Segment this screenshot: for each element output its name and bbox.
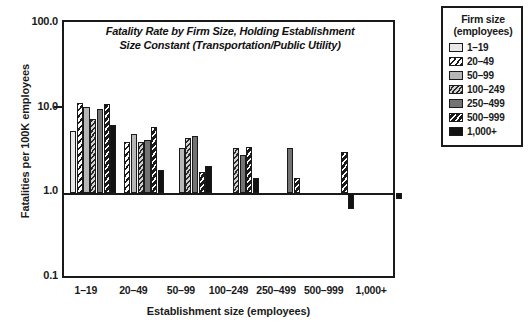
legend: Firm size (employees) 1–1920–4950–99100–…: [441, 6, 523, 147]
bar: [240, 155, 246, 193]
legend-item-label: 50–99: [467, 70, 494, 81]
y-tick-label: 100.0: [31, 15, 58, 27]
x-axis-title: Establishment size (employees): [62, 305, 395, 317]
chart-title-line-2: Size Constant (Transportation/Public Uti…: [70, 38, 390, 52]
bar: [83, 107, 89, 193]
bar: [341, 152, 347, 194]
legend-swatch: [449, 99, 463, 108]
legend-item-label: 250–499: [467, 98, 505, 109]
legend-item-label: 1,000+: [467, 126, 497, 137]
bar: [138, 142, 144, 193]
legend-item: 250–499: [449, 97, 517, 109]
legend-item: 500–999: [449, 111, 517, 123]
legend-item-label: 1–19: [467, 42, 488, 53]
bar: [179, 148, 185, 193]
x-tick-label: 1,000+: [336, 284, 406, 296]
legend-swatch: [449, 57, 463, 66]
legend-items: 1–1920–4950–99100–249250–499500–9991,000…: [449, 41, 517, 137]
bar: [158, 170, 164, 194]
legend-title: Firm size (employees): [449, 13, 517, 37]
baseline-1-0: [64, 193, 395, 195]
bar: [97, 109, 103, 194]
bar: [287, 148, 293, 193]
bar: [185, 138, 191, 193]
legend-swatch: [449, 71, 463, 80]
bar: [104, 104, 110, 194]
chart-root: 100.010.01.00.1 Fatalities per 100K empl…: [0, 0, 528, 336]
chart-title-line-1: Fatality Rate by Firm Size, Holding Esta…: [70, 24, 390, 38]
bar: [131, 134, 137, 193]
legend-item: 1–19: [449, 41, 517, 53]
bar: [151, 127, 157, 193]
bar: [246, 147, 252, 193]
bar: [192, 136, 198, 193]
bar: [90, 119, 96, 193]
legend-item: 100–249: [449, 83, 517, 95]
legend-item-label: 20–49: [467, 56, 494, 67]
legend-swatch: [449, 43, 463, 52]
legend-item: 20–49: [449, 55, 517, 67]
bar: [348, 193, 354, 209]
legend-item: 50–99: [449, 69, 517, 81]
bar: [199, 172, 205, 194]
bar: [205, 166, 211, 193]
bar: [294, 178, 300, 193]
legend-title-line-2: (employees): [449, 25, 517, 37]
y-axis-title: Fatalities per 100K employees: [19, 46, 31, 236]
bar: [233, 148, 239, 193]
legend-swatch: [449, 127, 463, 136]
bar: [144, 140, 150, 194]
legend-item: 1,000+: [449, 125, 517, 137]
bar: [396, 193, 402, 199]
bar: [253, 178, 259, 193]
legend-item-label: 500–999: [467, 112, 505, 123]
chart-title: Fatality Rate by Firm Size, Holding Esta…: [70, 24, 390, 52]
bar: [124, 142, 130, 193]
legend-swatch: [449, 85, 463, 94]
legend-swatch: [449, 113, 463, 122]
plot-area: [62, 20, 395, 278]
legend-item-label: 100–249: [467, 84, 505, 95]
bar: [70, 131, 76, 194]
bar: [77, 103, 83, 193]
y-tick-label: 1.0: [43, 184, 58, 196]
legend-title-line-1: Firm size: [449, 13, 517, 25]
y-tick-label: 0.1: [43, 269, 58, 281]
bar: [110, 125, 116, 194]
